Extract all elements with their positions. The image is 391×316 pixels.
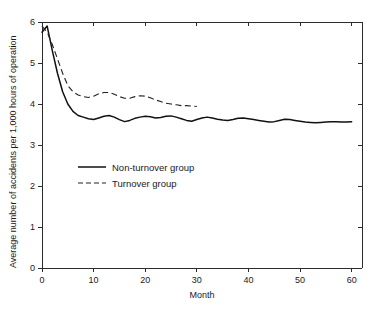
line-chart: Average number of accidents per 1,000 ho… bbox=[0, 0, 391, 316]
legend-label-non-turnover-group: Non-turnover group bbox=[112, 162, 194, 173]
y-axis-ticks: 0123456 bbox=[30, 17, 362, 273]
series-turnover-group bbox=[42, 26, 197, 106]
x-tick-label: 60 bbox=[347, 275, 357, 285]
x-tick-label: 20 bbox=[140, 275, 150, 285]
chart-figure: Average number of accidents per 1,000 ho… bbox=[0, 0, 391, 316]
y-tick-label: 6 bbox=[30, 17, 35, 27]
y-tick-label: 0 bbox=[30, 263, 35, 273]
y-axis-title: Average number of accidents per 1,000 ho… bbox=[8, 36, 18, 268]
x-tick-label: 30 bbox=[192, 275, 202, 285]
plot-frame bbox=[42, 22, 362, 268]
y-tick-label: 5 bbox=[30, 58, 35, 68]
chart-legend: Non-turnover group Turnover group bbox=[78, 162, 194, 189]
x-tick-label: 0 bbox=[39, 275, 44, 285]
x-tick-label: 50 bbox=[295, 275, 305, 285]
x-tick-label: 40 bbox=[243, 275, 253, 285]
legend-label-turnover-group: Turnover group bbox=[112, 178, 177, 189]
y-tick-label: 3 bbox=[30, 140, 35, 150]
x-axis-title: Month bbox=[189, 290, 214, 300]
series-non-turnover-group bbox=[42, 26, 352, 123]
x-axis-ticks: 0102030405060 bbox=[39, 22, 356, 285]
y-tick-label: 2 bbox=[30, 181, 35, 191]
y-tick-label: 1 bbox=[30, 222, 35, 232]
x-tick-label: 10 bbox=[89, 275, 99, 285]
y-tick-label: 4 bbox=[30, 99, 35, 109]
